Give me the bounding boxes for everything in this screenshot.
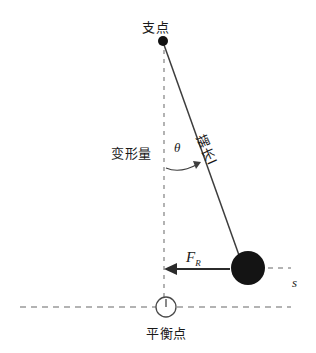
equilibrium-point-label: 平衡点 (146, 327, 187, 340)
angle-label: θ (174, 141, 180, 154)
pendulum-diagram: 支点 变形量 摆长l θ FR s 平衡点 (0, 0, 316, 353)
pendulum-bob (231, 251, 265, 285)
angle-arc-arrowhead-icon (193, 161, 201, 169)
pivot-label: 支点 (142, 21, 169, 34)
angle-arc (166, 164, 198, 170)
restoring-force-arrowhead-icon (164, 263, 177, 275)
deformation-label: 变形量 (111, 147, 152, 160)
force-subscript: R (195, 258, 201, 268)
restoring-force-label: FR (186, 250, 201, 268)
pivot-dot-icon (158, 36, 168, 46)
force-symbol: F (186, 249, 195, 265)
diagram-vector-layer (0, 0, 316, 353)
displacement-axis-label: s (292, 276, 297, 289)
